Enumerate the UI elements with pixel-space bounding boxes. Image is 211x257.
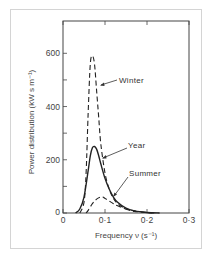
- winter-curve: [80, 56, 156, 213]
- year-label: Year: [128, 141, 145, 150]
- x-axis-label: Frequency ν (s⁻¹): [95, 231, 158, 240]
- y-tick-600: 600: [46, 48, 60, 58]
- plot-frame: [63, 21, 189, 213]
- winter-label: Winter: [119, 76, 144, 85]
- y-tick-0: 0: [55, 207, 60, 217]
- year-arrow: [103, 148, 127, 158]
- x-tick-0-3: 0·3: [183, 215, 196, 225]
- y-tick-200: 200: [46, 155, 60, 165]
- series-curves: [76, 56, 160, 213]
- winter-arrowhead-icon: [100, 83, 105, 87]
- x-tick-0-2: 0·2: [141, 215, 154, 225]
- y-axis-label: Power distribution (kW s m⁻¹): [27, 69, 36, 174]
- summer-label: Summer: [129, 169, 161, 178]
- axis-ticks: [63, 21, 189, 213]
- y-tick-400: 400: [46, 102, 60, 112]
- summer-arrow: [114, 177, 128, 196]
- x-tick-0: 0: [61, 215, 66, 225]
- year-curve: [76, 146, 160, 213]
- x-tick-0-1: 0·1: [99, 215, 112, 225]
- power-distribution-chart: 600 400 200 0 0 0·1 0·2 0·3 Frequency ν …: [0, 0, 211, 257]
